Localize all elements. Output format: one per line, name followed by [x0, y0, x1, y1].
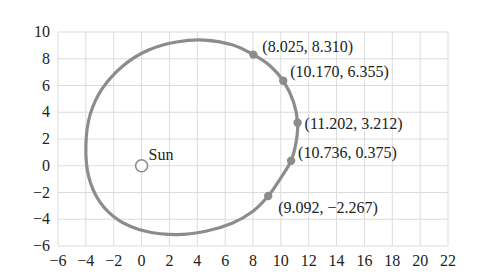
- x-tick-label: 2: [165, 252, 173, 269]
- x-tick-label: −4: [77, 252, 94, 269]
- x-tick-label: 8: [249, 252, 257, 269]
- orbit-point-marker: [287, 157, 295, 165]
- x-tick-label: −2: [105, 252, 122, 269]
- orbit-point-label: (8.025, 8.310): [262, 38, 353, 56]
- y-tick-label: 4: [42, 103, 50, 120]
- x-tick-label: 10: [273, 252, 289, 269]
- orbit-point-label: (10.736, 0.375): [298, 144, 397, 162]
- y-tick-label: 0: [42, 157, 50, 174]
- x-tick-label: 16: [356, 252, 372, 269]
- y-tick-label: −4: [33, 210, 50, 227]
- y-tick-label: 10: [34, 23, 50, 40]
- x-tick-label: 22: [440, 252, 456, 269]
- orbit-point-label: (10.170, 6.355): [290, 63, 389, 81]
- y-axis-tick-labels: −6−4−20246810: [33, 23, 50, 254]
- orbit-point-marker: [279, 77, 287, 85]
- x-tick-label: 0: [138, 252, 146, 269]
- sun-label: Sun: [149, 146, 174, 163]
- x-tick-label: −6: [49, 252, 66, 269]
- x-tick-label: 20: [412, 252, 428, 269]
- y-tick-label: 6: [42, 77, 50, 94]
- x-tick-label: 14: [329, 252, 345, 269]
- y-tick-label: −6: [33, 237, 50, 254]
- orbit-chart: −6−4−20246810121416182022 −6−4−20246810 …: [0, 0, 480, 279]
- y-tick-label: 8: [42, 50, 50, 67]
- x-tick-label: 18: [384, 252, 400, 269]
- x-tick-label: 6: [221, 252, 229, 269]
- x-tick-label: 12: [301, 252, 317, 269]
- x-axis-tick-labels: −6−4−20246810121416182022: [49, 252, 456, 269]
- sun-marker: [136, 160, 148, 172]
- orbit-point-label: (11.202, 3.212): [305, 115, 403, 133]
- chart-grid: [58, 32, 448, 246]
- orbit-point-marker: [249, 50, 257, 58]
- x-tick-label: 4: [193, 252, 201, 269]
- y-tick-label: 2: [42, 130, 50, 147]
- orbit-curve: [86, 40, 298, 235]
- orbit-point-marker: [264, 192, 272, 200]
- y-tick-label: −2: [33, 184, 50, 201]
- orbit-point-marker: [293, 119, 301, 127]
- orbit-point-label: (9.092, −2.267): [278, 199, 378, 217]
